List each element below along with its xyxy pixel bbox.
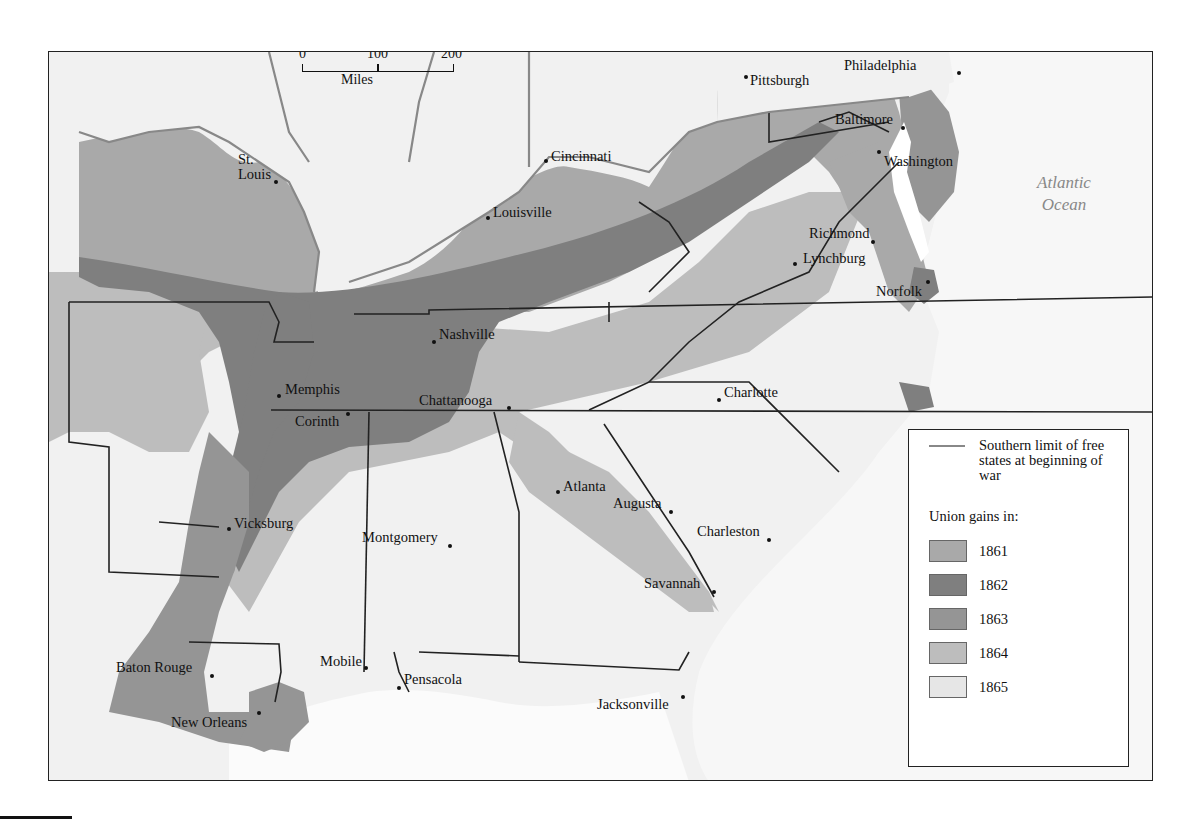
legend-item-1862: 1862 bbox=[929, 574, 1109, 598]
ocean-label-line2: Ocean bbox=[1019, 194, 1109, 216]
city-label: St. Louis bbox=[238, 152, 271, 182]
city-label: Chattanooga bbox=[419, 393, 492, 408]
legend-year: 1864 bbox=[979, 645, 1008, 662]
city-marker bbox=[364, 666, 368, 670]
scale-unit: Miles bbox=[341, 72, 373, 88]
city-marker bbox=[901, 126, 905, 130]
city-marker bbox=[744, 75, 748, 79]
city-label: Pittsburgh bbox=[750, 73, 809, 88]
legend-year: 1861 bbox=[979, 543, 1008, 560]
city-label: Pensacola bbox=[404, 672, 462, 687]
city-marker bbox=[486, 216, 490, 220]
city-marker bbox=[712, 590, 716, 594]
legend-heading: Union gains in: bbox=[929, 508, 1018, 525]
city-label: Nashville bbox=[439, 327, 495, 342]
city-marker bbox=[681, 695, 685, 699]
scale-tick-100: 100 bbox=[367, 51, 388, 62]
city-marker bbox=[257, 711, 261, 715]
swatch-1864 bbox=[929, 642, 967, 664]
city-label: New Orleans bbox=[171, 715, 247, 730]
city-label: Atlanta bbox=[563, 479, 606, 494]
legend-item-1863: 1863 bbox=[929, 608, 1109, 632]
swatch-1863 bbox=[929, 608, 967, 630]
ocean-label-line1: Atlantic bbox=[1019, 172, 1109, 194]
map-frame: 0 100 200 Miles Atlantic Ocean Pittsburg… bbox=[48, 51, 1153, 781]
legend-item-1864: 1864 bbox=[929, 642, 1109, 666]
city-marker bbox=[346, 412, 350, 416]
city-marker bbox=[210, 674, 214, 678]
ocean-label: Atlantic Ocean bbox=[1019, 172, 1109, 216]
city-marker bbox=[767, 538, 771, 542]
city-label: Vicksburg bbox=[234, 516, 293, 531]
swatch-1862 bbox=[929, 574, 967, 596]
scale-bar: 0 100 200 Miles bbox=[299, 51, 459, 106]
city-label: Baton Rouge bbox=[116, 660, 192, 675]
city-marker bbox=[227, 527, 231, 531]
city-label: Philadelphia bbox=[844, 58, 917, 73]
legend-item-1865: 1865 bbox=[929, 676, 1109, 700]
scale-bar-mid-tick bbox=[377, 64, 379, 71]
legend-year: 1863 bbox=[979, 611, 1008, 628]
city-label: Baltimore bbox=[835, 112, 893, 127]
city-marker bbox=[432, 340, 436, 344]
scale-tick-200: 200 bbox=[441, 51, 462, 62]
swatch-1861 bbox=[929, 540, 967, 562]
city-marker bbox=[274, 180, 278, 184]
city-label: Jacksonville bbox=[597, 697, 669, 712]
city-marker bbox=[926, 280, 930, 284]
free-state-line-key bbox=[929, 445, 965, 447]
city-marker bbox=[877, 150, 881, 154]
city-label: Savannah bbox=[644, 576, 700, 591]
city-marker bbox=[669, 510, 673, 514]
city-marker bbox=[871, 240, 875, 244]
city-marker bbox=[448, 544, 452, 548]
city-label: Mobile bbox=[320, 654, 362, 669]
page-rule bbox=[0, 816, 72, 819]
legend-year: 1862 bbox=[979, 577, 1008, 594]
legend-line-label: Southern limit of free states at beginni… bbox=[979, 438, 1124, 483]
city-label: Montgomery bbox=[362, 530, 438, 545]
city-marker bbox=[957, 71, 961, 75]
city-marker bbox=[717, 398, 721, 402]
city-marker bbox=[277, 394, 281, 398]
scale-tick-0: 0 bbox=[299, 51, 306, 62]
city-label: Louisville bbox=[493, 205, 552, 220]
city-marker bbox=[556, 490, 560, 494]
city-marker bbox=[793, 262, 797, 266]
city-marker bbox=[397, 686, 401, 690]
city-label: Corinth bbox=[295, 414, 339, 429]
city-marker bbox=[507, 406, 511, 410]
city-label: Lynchburg bbox=[803, 251, 866, 266]
city-label: Augusta bbox=[613, 496, 661, 511]
city-marker bbox=[544, 159, 548, 163]
city-label: Memphis bbox=[285, 382, 340, 397]
city-label: Charleston bbox=[697, 524, 760, 539]
city-label: Norfolk bbox=[876, 284, 922, 299]
legend-year: 1865 bbox=[979, 679, 1008, 696]
legend-item-1861: 1861 bbox=[929, 540, 1109, 564]
city-label: Charlotte bbox=[724, 385, 778, 400]
city-label: Washington bbox=[884, 154, 953, 169]
swatch-1865 bbox=[929, 676, 967, 698]
legend: Southern limit of free states at beginni… bbox=[908, 429, 1129, 767]
city-label: Cincinnati bbox=[551, 149, 611, 164]
city-label: Richmond bbox=[809, 226, 869, 241]
